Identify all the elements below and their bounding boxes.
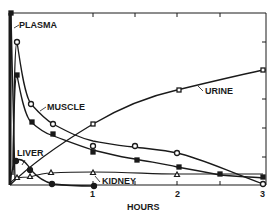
series-muscle-open	[13, 40, 266, 187]
x-tick-1: 1	[90, 189, 95, 199]
label-liver: LIVER	[17, 148, 44, 158]
x-tick-3: 3	[260, 189, 265, 199]
x-tick-2: 2	[175, 189, 180, 199]
label-plasma: PLASMA	[19, 20, 58, 30]
label-kidney: KIDNEY	[102, 176, 136, 186]
label-urine: URINE	[205, 86, 233, 96]
x-tick-labels: 1 2 3	[90, 189, 265, 199]
x-axis-label: HOURS	[127, 202, 160, 212]
tissue-distribution-chart: PLASMA MUSCLE URINE LIVER KIDNEY 1 2 3 H…	[0, 0, 278, 215]
label-muscle: MUSCLE	[47, 102, 85, 112]
series-labels: PLASMA MUSCLE URINE LIVER KIDNEY	[14, 20, 233, 186]
series-kidney	[10, 170, 263, 183]
